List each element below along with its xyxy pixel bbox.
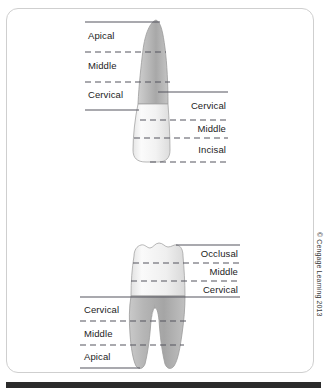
anterior-tooth-shape [133,20,170,162]
label-posterior-crown-middle: Middle [158,267,238,277]
label-anterior-crown-incisal: Incisal [146,145,226,155]
label-anterior-root-cervical: Cervical [88,90,123,100]
label-posterior-root-cervical: Cervical [84,305,119,315]
label-posterior-root-middle: Middle [84,329,113,339]
label-posterior-root-apical: Apical [84,352,110,362]
scan-edge-artifact [6,382,321,388]
label-anterior-root-middle: Middle [88,61,117,71]
label-posterior-crown-occlusal: Occlusal [158,249,238,259]
label-anterior-root-apical: Apical [88,31,114,41]
tooth-diagram-svg [0,0,327,388]
label-anterior-crown-middle: Middle [146,124,226,134]
label-anterior-crown-cervical: Cervical [146,101,226,111]
posterior-tooth-shape [129,243,185,368]
copyright-notice: © Cengage Learning 2013 [193,232,323,244]
figure-page: Apical Middle Cervical Cervical Middle I… [0,0,327,388]
label-posterior-crown-cervical: Cervical [158,285,238,295]
